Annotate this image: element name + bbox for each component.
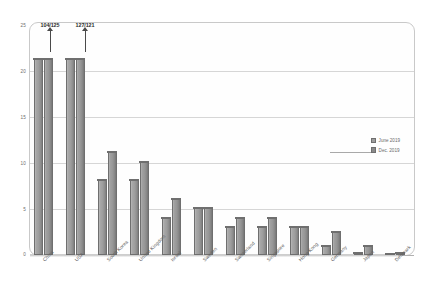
overflow-annotation-china: 104/125 bbox=[33, 22, 67, 52]
bar-top-face bbox=[203, 207, 213, 209]
bar-top-face bbox=[33, 58, 43, 60]
bar-body bbox=[194, 208, 203, 255]
bar-group bbox=[34, 22, 53, 255]
bar-chart: 25 20 15 10 5 0 104/125 127/121 ChinaUSA… bbox=[0, 0, 427, 306]
bar-body bbox=[322, 246, 331, 255]
bar-top-face bbox=[161, 217, 171, 219]
bar-top-face bbox=[299, 226, 309, 228]
bar-top-face bbox=[107, 151, 117, 153]
bar-top-face bbox=[321, 245, 331, 247]
bar-group bbox=[290, 22, 309, 255]
legend: June 2019 Dec. 2019 bbox=[371, 138, 400, 157]
bar-top-face bbox=[193, 207, 203, 209]
bar-group bbox=[162, 22, 181, 255]
bar-body bbox=[290, 227, 299, 255]
legend-swatch-icon bbox=[371, 147, 376, 152]
bar-body bbox=[76, 59, 85, 255]
bar-top-face bbox=[139, 161, 149, 163]
bar-top-face bbox=[267, 217, 277, 219]
bar-top-face bbox=[353, 252, 363, 254]
bar-top-face bbox=[363, 245, 373, 247]
bar-top-face bbox=[65, 58, 75, 60]
bar-body bbox=[108, 152, 117, 255]
bar-top-face bbox=[257, 226, 267, 228]
bar-top-face bbox=[331, 231, 341, 233]
bar-body bbox=[98, 180, 107, 255]
bars-layer bbox=[30, 22, 414, 255]
overflow-arrow-icon bbox=[85, 30, 86, 52]
bar-top-face bbox=[171, 198, 181, 200]
legend-leader-line bbox=[330, 152, 376, 153]
overflow-annotation-usa: 127/121 bbox=[68, 22, 102, 52]
bar-body bbox=[140, 162, 149, 255]
y-tick-label: 25 bbox=[4, 23, 26, 28]
bar-top-face bbox=[225, 226, 235, 228]
bar-top-face bbox=[235, 217, 245, 219]
bar-body bbox=[226, 227, 235, 255]
y-tick-label: 10 bbox=[4, 161, 26, 166]
bar-body bbox=[172, 199, 181, 255]
bar-body bbox=[44, 59, 53, 255]
bar-group bbox=[194, 22, 213, 255]
bar-top-face bbox=[43, 58, 53, 60]
bar-top-face bbox=[289, 226, 299, 228]
y-tick-label: 5 bbox=[4, 207, 26, 212]
legend-item-label: Dec. 2019 bbox=[379, 148, 400, 153]
bar-top-face bbox=[97, 179, 107, 181]
bar-body bbox=[66, 59, 75, 255]
overflow-arrow-icon bbox=[50, 30, 51, 52]
bar-group bbox=[66, 22, 85, 255]
bar-group bbox=[258, 22, 277, 255]
bar-group bbox=[98, 22, 117, 255]
y-tick-label: 0 bbox=[4, 252, 26, 257]
bar-top-face bbox=[75, 58, 85, 60]
legend-swatch-icon bbox=[371, 138, 376, 143]
bar-group bbox=[130, 22, 149, 255]
y-tick-label: 20 bbox=[4, 69, 26, 74]
bar-body bbox=[34, 59, 43, 255]
bar-top-face bbox=[129, 179, 139, 181]
legend-item-june-2019[interactable]: June 2019 bbox=[371, 138, 400, 143]
y-tick-label: 15 bbox=[4, 115, 26, 120]
bar-top-face bbox=[385, 253, 395, 255]
bar-group bbox=[226, 22, 245, 255]
bar-group bbox=[322, 22, 341, 255]
legend-item-label: June 2019 bbox=[379, 138, 400, 143]
bar-body bbox=[130, 180, 139, 255]
legend-item-dec-2019[interactable]: Dec. 2019 bbox=[371, 147, 400, 152]
bar-body bbox=[258, 227, 267, 255]
